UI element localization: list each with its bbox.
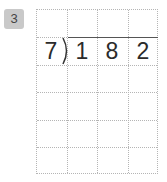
grid-row-line — [37, 92, 157, 93]
grid-row-line — [37, 65, 157, 66]
dividend-digit-3: 2 — [128, 37, 158, 65]
divisor: 7 — [36, 37, 66, 65]
grid-row-line — [37, 120, 157, 121]
problem-number-badge: 3 — [4, 9, 24, 29]
dividend-digit-1: 1 — [67, 37, 97, 65]
long-division-grid: 7 1 8 2 — [36, 9, 158, 174]
grid-row-line — [37, 147, 157, 148]
dividend-digit-2: 8 — [97, 37, 127, 65]
